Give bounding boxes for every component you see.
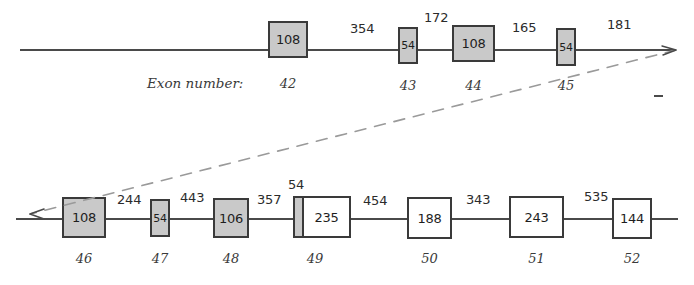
- intron-label-443: 443: [180, 191, 204, 204]
- exon-size-51: 243: [525, 211, 549, 224]
- exon-49-sliver-size: 54: [288, 177, 304, 192]
- exon-box-47: 54: [150, 199, 170, 237]
- exon-number-52: 52: [612, 252, 652, 265]
- exon-number-50: 50: [407, 252, 452, 265]
- exon-number-46: 46: [62, 252, 106, 265]
- exon-size-52: 144: [620, 212, 644, 225]
- exon-size-49: 235: [315, 211, 339, 224]
- intron-value-443: 443: [180, 190, 204, 205]
- exon-box-52: 144: [612, 198, 652, 239]
- exon-number-47: 47: [146, 252, 174, 265]
- exon-49-sliver-size-label: 54: [288, 178, 304, 191]
- exon-box-51: 243: [509, 196, 564, 238]
- exon-number-48: 48: [213, 252, 249, 265]
- intron-label-343: 343: [466, 193, 490, 206]
- intron-label-535: 535: [584, 190, 608, 203]
- intron-label-244: 244: [117, 193, 141, 206]
- intron-value-244: 244: [117, 192, 141, 207]
- exon-box-48: 106: [213, 198, 249, 238]
- intron-label-357: 357: [257, 193, 281, 206]
- exon-size-47: 54: [153, 213, 166, 224]
- exon-size-48: 106: [219, 212, 243, 225]
- diagram-row-2: 108 244 54 443 106 357 235 54 4: [0, 0, 694, 285]
- intron-value-535: 535: [584, 189, 608, 204]
- intron-value-454: 454: [363, 193, 387, 208]
- exon-49-open-segment: 235: [303, 196, 351, 238]
- exon-size-50: 188: [418, 212, 442, 225]
- exon-box-46: 108: [62, 197, 106, 238]
- exon-number-51: 51: [509, 252, 564, 265]
- exon-box-49: 235: [293, 196, 351, 238]
- intron-label-454: 454: [363, 194, 387, 207]
- exon-49-shaded-segment: [293, 196, 303, 238]
- exon-box-50: 188: [407, 197, 452, 239]
- intron-value-357: 357: [257, 192, 281, 207]
- intron-value-343: 343: [466, 192, 490, 207]
- exon-intron-diagram: 108 354 54 172 108 165 54 181 Exon numbe…: [0, 0, 694, 285]
- exon-number-49: 49: [293, 252, 337, 265]
- exon-size-46: 108: [72, 211, 96, 224]
